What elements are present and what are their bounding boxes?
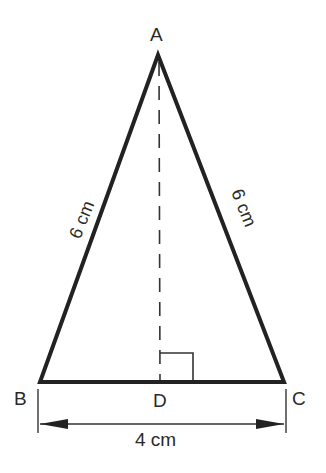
altitude-AD [159,62,160,382]
triangle-diagram: A B C D 6 cm 6 cm 4 cm [0,0,326,473]
side-label-BC: 4 cm [135,429,176,450]
vertex-label-A: A [150,24,163,45]
right-angle-marker [160,353,193,382]
side-label-AC: 6 cm [227,186,260,230]
vertex-label-C: C [292,388,306,409]
vertex-label-B: B [14,388,27,409]
arrowhead-left [40,419,68,429]
vertex-label-D: D [153,390,167,411]
arrowhead-right [256,419,284,429]
